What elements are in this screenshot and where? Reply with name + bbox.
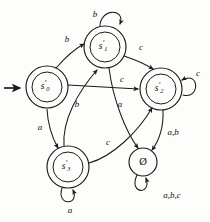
transition-s3-s1 (64, 70, 97, 146)
transition-empty-self (135, 175, 147, 190)
transition-s2-empty (152, 110, 163, 150)
transition-path (100, 12, 121, 26)
edge-label-s1-self: b (93, 9, 98, 19)
transition-path (182, 78, 196, 96)
state-s2[interactable]: s′2 (140, 68, 182, 110)
edge-label-s1-empty: a (118, 99, 123, 109)
transition-s0-s1 (56, 44, 84, 68)
edge-label-s0-s1: b (65, 34, 70, 44)
state-label-s1: s′1 (99, 39, 108, 53)
state-label-s3: s′3 (62, 159, 71, 173)
state-s3[interactable]: s′3 (47, 146, 89, 188)
edge-label-s2-self: c (196, 68, 200, 78)
state-label-s0: s′0 (41, 79, 50, 93)
edge-label-empty-self: a,b,c (163, 190, 181, 200)
state-s0[interactable]: s′0 (26, 66, 68, 108)
edge-label-s2-empty: a,b (167, 127, 179, 137)
transition-path (56, 44, 84, 68)
transition-path (47, 109, 58, 148)
transition-path (61, 188, 74, 202)
transition-path (124, 56, 153, 69)
transition-path (89, 108, 152, 163)
transition-path (152, 110, 163, 150)
transition-s3-self (61, 188, 74, 202)
transition-s3-s2 (89, 108, 152, 163)
transition-path (64, 70, 97, 146)
state-label-s2: s′2 (155, 81, 164, 95)
edge-label-s0-s2: c (120, 74, 124, 84)
edge-label-s3-s1: b (75, 99, 80, 109)
edge-label-s3-self: a (68, 205, 73, 215)
edge-label-s3-s2: c (106, 137, 110, 147)
edge-label-s0-s3: a (38, 122, 43, 132)
automaton-canvas: s′0 s′1 s′2 s′3 Ø b c a b c a c a,b (0, 0, 210, 222)
transition-s0-s3 (47, 109, 58, 148)
transition-s1-s2 (124, 56, 153, 69)
state-empty-set[interactable]: Ø (129, 148, 157, 176)
state-label-empty-set: Ø (139, 156, 147, 167)
transition-s0-s2 (68, 85, 138, 89)
edge-label-s1-s2: c (139, 42, 143, 52)
transition-path (68, 85, 138, 89)
state-s1[interactable]: s′1 (84, 26, 126, 68)
transition-path (135, 175, 147, 190)
transition-s1-self (100, 12, 121, 26)
transition-s2-self (182, 78, 196, 96)
automaton-diagram: s′0 s′1 s′2 s′3 Ø b c a b c a c a,b (0, 0, 210, 222)
